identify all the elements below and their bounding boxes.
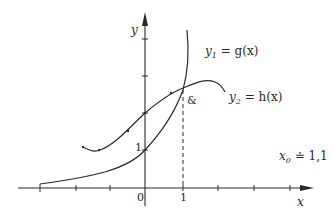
x-axis-arrow-icon [300,185,314,191]
curve-h-points [82,92,172,151]
intersection-marker: & [187,94,197,107]
curve-g-label: y1 = g(x) [204,44,258,60]
function-graph: y x 0 1 1 y1 = g(x) y2 = h(x) & x0 ≐ 1,1 [0,0,334,218]
y-axis-label: y [130,23,138,37]
x-axis-label: x [297,195,304,209]
curve-g [40,30,188,184]
x-tick-label-1: 1 [180,191,187,204]
y-tick-label-1: 1 [135,141,142,154]
x0-annotation: x0 ≐ 1,1 [279,149,328,165]
curve-h-label: y2 = h(x) [228,90,282,106]
y-axis [142,12,148,206]
origin-label: 0 [137,191,144,204]
x-axis [18,184,314,192]
y-axis-arrow-icon [142,12,148,26]
